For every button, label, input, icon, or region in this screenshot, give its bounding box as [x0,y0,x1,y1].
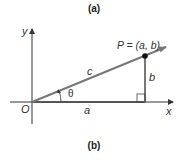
x-axis-label: x [165,105,172,117]
caption-b: (b) [88,140,101,151]
angle-label: θ [68,88,74,99]
right-triangle-diagram: (a) y x O P = (a, b) c a b θ (b) [0,0,188,168]
caption-a: (a) [88,3,100,14]
opposite-label: b [149,71,155,83]
hypotenuse-label: c [87,65,93,77]
y-axis-label: y [21,25,29,37]
origin-label: O [21,103,30,115]
right-angle-marker [137,94,145,102]
point-label: P = (a, b) [117,39,160,51]
point-p [142,53,148,59]
adjacent-label: a [84,104,90,116]
